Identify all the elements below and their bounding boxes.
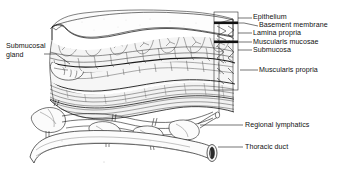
label-lamina-propria: Lamina propria [253,29,301,37]
label-regional-lymphatics: Regional lymphatics [245,121,309,129]
thoracic-duct-cut-end [207,145,217,162]
label-thoracic-duct: Thoracic duct [245,143,288,151]
label-submucosal-gland-line2: gland [6,51,24,59]
muscularis-mucosae-band [214,41,238,44]
label-submucosa: Submucosa [253,46,291,54]
leader-basement-membrane [238,23,258,26]
label-submucosal-gland-line1: Submucosal [6,42,46,50]
anatomical-figure: Epithelium Basement membrane Lamina prop… [0,0,337,175]
label-muscularis-propria: Muscularis propria [259,66,318,74]
basement-membrane-band [214,22,238,25]
epithelium-layer [50,10,233,40]
